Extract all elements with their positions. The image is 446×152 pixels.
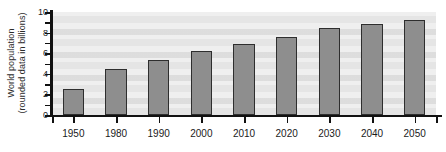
x-axis-tick-mark	[159, 117, 161, 123]
bar	[105, 69, 126, 115]
y-axis-title: World population (rounded data in billio…	[0, 0, 34, 126]
x-axis-tick-label: 2030	[318, 128, 340, 140]
y-axis-tick-mark	[45, 12, 51, 14]
y-axis-tick-mark	[45, 33, 51, 35]
y-axis-tick-mark	[45, 74, 51, 76]
y-axis-tick-mark	[45, 105, 51, 107]
y-axis-tick-mark	[45, 43, 51, 45]
bar-chart: World population (rounded data in billio…	[0, 0, 446, 152]
bar	[319, 28, 340, 115]
x-axis-tick-label: 1990	[148, 128, 170, 140]
x-axis-tick-mark	[372, 117, 374, 123]
bar	[233, 44, 254, 115]
x-axis-boundary-tick-mark	[436, 117, 438, 123]
y-axis-tick-mark	[45, 53, 51, 55]
bar	[276, 37, 297, 115]
y-axis-title-line-2: (rounded data in billions)	[17, 12, 28, 113]
x-axis-line	[50, 115, 442, 118]
x-axis-tick-mark	[73, 117, 75, 123]
bar	[361, 24, 382, 115]
y-axis-tick-mark	[45, 94, 51, 96]
x-axis-boundary-tick-mark	[52, 117, 54, 123]
y-axis-tick-mark	[45, 64, 51, 66]
x-axis-tick-label: 2010	[233, 128, 255, 140]
y-axis-title-line-1: World population	[6, 29, 16, 98]
x-axis-tick-mark	[287, 117, 289, 123]
bar	[148, 60, 169, 115]
bar	[191, 51, 212, 115]
x-axis-tick-label: 2040	[361, 128, 383, 140]
x-axis-tick-mark	[201, 117, 203, 123]
y-axis-tick-mark	[45, 115, 51, 117]
x-axis-tick-label: 1980	[105, 128, 127, 140]
y-axis-tick-mark	[45, 84, 51, 86]
x-axis-tick-mark	[415, 117, 417, 123]
x-axis-tick-mark	[116, 117, 118, 123]
x-axis-tick-label: 2050	[404, 128, 426, 140]
x-axis-tick-label: 2020	[276, 128, 298, 140]
x-axis-tick-label: 2000	[190, 128, 212, 140]
x-axis-tick-mark	[244, 117, 246, 123]
x-axis-tick-mark	[329, 117, 331, 123]
y-axis-tick-mark	[45, 22, 51, 24]
plot-area	[52, 12, 436, 115]
bar	[63, 89, 84, 115]
bar	[404, 20, 425, 115]
x-axis-tick-label: 1950	[62, 128, 84, 140]
